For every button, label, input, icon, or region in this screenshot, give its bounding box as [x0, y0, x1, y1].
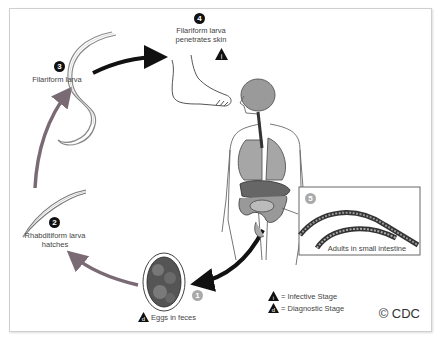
stage-5-label: Adults in small intestine — [322, 244, 412, 253]
stage-4-label-line1: Filariform larva — [166, 26, 236, 35]
arrow-1-to-2 — [72, 255, 138, 285]
legend-infective: i = Infective Stage — [268, 291, 337, 301]
inset-connector — [282, 208, 298, 214]
copyright-label: © CDC — [379, 306, 420, 321]
svg-text:i: i — [273, 295, 274, 301]
stage-1-label: Eggs in feces — [151, 313, 196, 322]
legend-diagnostic: d = Diagnostic Stage — [268, 303, 344, 313]
arrow-2-to-3 — [35, 92, 68, 188]
stage-3-label: Filariform larva — [22, 75, 92, 84]
stage-1-badge: 1 — [192, 290, 203, 301]
svg-text:d: d — [272, 307, 275, 313]
legend-infective-text: = Infective Stage — [281, 292, 337, 301]
stage-2-label-line1: Rhabditiform larva — [20, 231, 90, 240]
diagnostic-stage-icon: d — [138, 312, 149, 322]
stage-1-label-row: d Eggs in feces — [138, 312, 196, 322]
stage-2-label-line2: hatches — [20, 240, 90, 249]
stage-4-badge: 4 — [194, 13, 205, 24]
stage-2-badge: 2 — [49, 217, 60, 228]
svg-text:d: d — [142, 316, 145, 322]
arrow-5-to-1 — [198, 230, 263, 283]
foot-illustration — [172, 55, 231, 106]
stage-4-label: Filariform larva penetrates skin — [166, 26, 236, 44]
stage-3-badge: 3 — [54, 61, 65, 72]
infective-stage-icon: i — [268, 291, 279, 301]
arrow-3-to-4 — [93, 57, 160, 73]
stage-5-badge: 5 — [305, 193, 316, 204]
stage-4-label-line2: penetrates skin — [166, 35, 236, 44]
egg-illustration — [143, 253, 185, 311]
filariform-larva-illustration — [58, 32, 116, 145]
legend-diagnostic-text: = Diagnostic Stage — [281, 304, 344, 313]
stage-2-label: Rhabditiform larva hatches — [20, 231, 90, 249]
human-body-illustration — [222, 79, 306, 265]
rhabditiform-larva-illustration — [23, 190, 86, 237]
infective-stage-icon-foot: i — [215, 48, 228, 60]
diagnostic-stage-icon-legend: d — [268, 303, 279, 313]
